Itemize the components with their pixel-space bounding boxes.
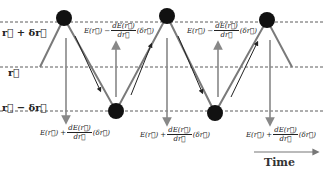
time-axis-label: Time — [264, 156, 295, 169]
particle-dot-bottom-1 — [108, 103, 124, 119]
motion-arrow-up-1 — [131, 45, 151, 95]
formula-denominator: dr⃗ — [280, 135, 292, 143]
formula-fraction: dE(r⃗) dr⃗ — [273, 127, 298, 143]
formula-numerator: dE(r⃗) — [214, 23, 239, 31]
motion-arrow-down-2 — [178, 36, 202, 92]
formula-lhs: E(r⃗) − — [187, 27, 213, 35]
formula-numerator: dE(r⃗) — [67, 125, 92, 133]
formula-rhs: (δr⃗) — [193, 131, 210, 139]
formula-lhs: E(r⃗) + — [246, 131, 272, 139]
formula-lhs: E(r⃗) + — [40, 129, 66, 137]
formula-rhs: (δr⃗) — [137, 27, 154, 35]
formula-denominator: dr⃗ — [174, 135, 186, 143]
middle-level-label: r⃗ — [8, 67, 19, 78]
formula-rhs: (δr⃗) — [93, 129, 110, 137]
formula-numerator: dE(r⃗) — [111, 23, 136, 31]
bottom-formula-1: E(r⃗) + dE(r⃗) dr⃗ (δr⃗) — [40, 125, 110, 141]
upper-level-label: r⃗ + δr⃗ — [2, 27, 47, 38]
formula-numerator: dE(r⃗) — [273, 127, 298, 135]
formula-denominator: dr⃗ — [221, 31, 233, 39]
formula-denominator: dr⃗ — [118, 31, 130, 39]
top-formula-2: E(r⃗) − dE(r⃗) dr⃗ (δr⃗) — [187, 23, 257, 39]
particle-dot-top-1 — [56, 10, 72, 26]
formula-rhs: (δr⃗) — [240, 27, 257, 35]
formula-fraction: dE(r⃗) dr⃗ — [111, 23, 136, 39]
motion-arrow-up-2 — [231, 43, 257, 97]
formula-fraction: dE(r⃗) dr⃗ — [167, 127, 192, 143]
lower-level-label: r⃗ − δr⃗ — [2, 102, 47, 113]
bottom-formula-3: E(r⃗) + dE(r⃗) dr⃗ (δr⃗) — [246, 127, 316, 143]
formula-numerator: dE(r⃗) — [167, 127, 192, 135]
particle-dot-bottom-2 — [207, 105, 223, 121]
formula-lhs: E(r⃗) + — [140, 131, 166, 139]
formula-fraction: dE(r⃗) dr⃗ — [214, 23, 239, 39]
motion-arrow-down-1 — [75, 36, 100, 90]
top-formula-1: E(r⃗) − dE(r⃗) dr⃗ (δr⃗) — [84, 23, 154, 39]
formula-denominator: dr⃗ — [74, 133, 86, 141]
oscillation-diagram — [0, 0, 325, 173]
formula-rhs: (δr⃗) — [299, 131, 316, 139]
bottom-formula-2: E(r⃗) + dE(r⃗) dr⃗ (δr⃗) — [140, 127, 210, 143]
particle-dot-top-3 — [259, 12, 275, 28]
particle-dot-top-2 — [159, 8, 175, 24]
formula-lhs: E(r⃗) − — [84, 27, 110, 35]
formula-fraction: dE(r⃗) dr⃗ — [67, 125, 92, 141]
